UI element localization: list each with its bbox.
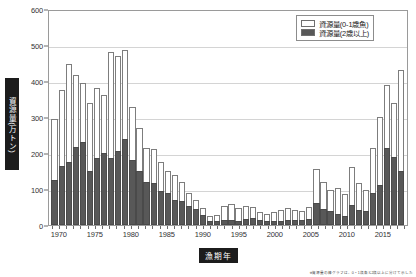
bar-column[interactable] [263, 11, 270, 225]
bar-segment-young [327, 190, 333, 212]
bar-column[interactable] [51, 11, 58, 225]
bar-column[interactable] [129, 11, 136, 225]
bar-column[interactable] [207, 11, 214, 225]
bar-segment-adult [73, 147, 79, 225]
bar-column[interactable] [292, 11, 299, 225]
bar-column[interactable] [86, 11, 93, 225]
bar-column[interactable] [150, 11, 157, 225]
x-tick-mark [376, 226, 377, 229]
bar-segment-young [101, 95, 107, 153]
bar-segment-adult [94, 158, 100, 225]
x-tick-mark [102, 226, 103, 229]
bar-column[interactable] [143, 11, 150, 225]
x-tick-label: 1990 [195, 230, 211, 239]
bar-column[interactable] [65, 11, 72, 225]
bar-segment-adult [363, 211, 369, 225]
bar-column[interactable] [164, 11, 171, 225]
x-tick-mark [368, 226, 369, 229]
bar-segment-adult [115, 151, 121, 225]
x-tick-mark [203, 226, 204, 229]
bar-segment-young [398, 70, 404, 171]
bar-segment-adult [228, 220, 234, 225]
bar-segment-adult [264, 221, 270, 225]
bar-column[interactable] [108, 11, 115, 225]
bar-column[interactable] [334, 11, 341, 225]
bar-column[interactable] [185, 11, 192, 225]
bar-column[interactable] [285, 11, 292, 225]
bar-column[interactable] [58, 11, 65, 225]
x-tick-mark [188, 226, 189, 229]
bar-segment-adult [158, 191, 164, 225]
x-tick-mark [181, 226, 182, 229]
bar-column[interactable] [320, 11, 327, 225]
bar-column[interactable] [306, 11, 313, 225]
bar-segment-adult [235, 221, 241, 225]
y-tick-label: 200 [31, 150, 43, 159]
bar-column[interactable] [171, 11, 178, 225]
bar-column[interactable] [235, 11, 242, 225]
bar-segment-adult [313, 203, 319, 225]
bar-segment-young [179, 182, 185, 201]
x-axis-title: 漁期年 [199, 248, 238, 263]
bar-segment-young [264, 214, 270, 221]
x-tick-mark [52, 226, 53, 229]
bar-column[interactable] [256, 11, 263, 225]
legend-label-adult: 資源量(2歳以上) [319, 27, 369, 38]
bar-column[interactable] [221, 11, 228, 225]
bar-column[interactable] [355, 11, 362, 225]
bar-column[interactable] [299, 11, 306, 225]
x-tick-label: 1975 [87, 230, 103, 239]
bar-segment-young [228, 204, 234, 220]
bar-column[interactable] [115, 11, 122, 225]
bar-column[interactable] [101, 11, 108, 225]
bar-column[interactable] [228, 11, 235, 225]
y-tick-label: 100 [31, 186, 43, 195]
x-tick-mark [124, 226, 125, 229]
bar-column[interactable] [93, 11, 100, 225]
x-tick-label: 2000 [267, 230, 283, 239]
x-tick-mark [404, 226, 405, 229]
bar-column[interactable] [136, 11, 143, 225]
bar-segment-adult [398, 171, 404, 225]
bar-column[interactable] [193, 11, 200, 225]
bar-segment-adult [299, 220, 305, 225]
bar-column[interactable] [348, 11, 355, 225]
x-tick-mark [304, 226, 305, 229]
y-tick-label: 500 [31, 42, 43, 51]
bar-column[interactable] [327, 11, 334, 225]
bar-column[interactable] [398, 11, 405, 225]
bar-segment-young [87, 103, 93, 171]
bar-column[interactable] [313, 11, 320, 225]
bar-column[interactable] [370, 11, 377, 225]
x-tick-label: 1985 [159, 230, 175, 239]
bar-column[interactable] [214, 11, 221, 225]
bar-segment-young [384, 85, 390, 148]
x-tick-mark [109, 226, 110, 229]
bar-column[interactable] [200, 11, 207, 225]
bar-segment-young [250, 207, 256, 218]
bar-column[interactable] [242, 11, 249, 225]
bar-column[interactable] [384, 11, 391, 225]
bar-segment-young [320, 182, 326, 209]
bar-column[interactable] [79, 11, 86, 225]
bar-column[interactable] [341, 11, 348, 225]
bar-segment-young [271, 212, 277, 221]
bar-segment-young [122, 50, 128, 139]
bar-column[interactable] [377, 11, 384, 225]
bar-segment-young [51, 119, 57, 180]
bar-column[interactable] [391, 11, 398, 225]
bar-column[interactable] [249, 11, 256, 225]
bar-column[interactable] [122, 11, 129, 225]
x-tick-mark [232, 226, 233, 229]
bar-column[interactable] [270, 11, 277, 225]
x-tick-mark [318, 226, 319, 229]
bar-column[interactable] [178, 11, 185, 225]
y-tick-label: 300 [31, 114, 43, 123]
bar-column[interactable] [362, 11, 369, 225]
bar-column[interactable] [278, 11, 285, 225]
x-tick-mark [95, 226, 96, 229]
bar-segment-young [129, 107, 135, 160]
bar-column[interactable] [72, 11, 79, 225]
bar-column[interactable] [157, 11, 164, 225]
x-tick-mark [282, 226, 283, 229]
